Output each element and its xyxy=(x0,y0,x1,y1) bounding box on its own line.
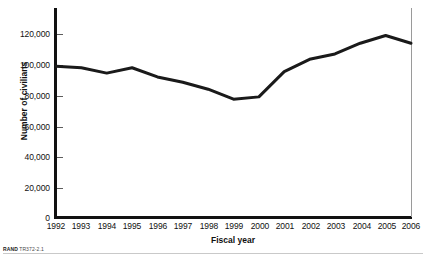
y-tick-label-120000: 120,000 xyxy=(2,30,50,39)
y-axis-title-wrapper: Number of civilians xyxy=(12,0,26,219)
x-tick-label-1999: 1999 xyxy=(225,221,244,231)
y-axis-tick-40000 xyxy=(57,157,63,158)
x-tick-label-1998: 1998 xyxy=(200,221,219,231)
y-axis-title: Number of civilians xyxy=(19,41,29,161)
chart-figure: 120,000 100,000 80,000 60,000 40,000 20,… xyxy=(0,0,427,258)
x-tick-label-1997: 1997 xyxy=(174,221,193,231)
x-axis-tick-labels: 1992 1993 1994 1995 1996 1997 1998 1999 … xyxy=(0,221,427,233)
figure-source-prefix: RAND xyxy=(3,246,18,252)
y-tick-label-20000: 20,000 xyxy=(2,184,50,193)
x-tick-label-2005: 2005 xyxy=(378,221,397,231)
x-tick-label-1994: 1994 xyxy=(98,221,117,231)
x-axis-title: Fiscal year xyxy=(54,235,412,245)
y-axis-tick-60000 xyxy=(57,127,63,128)
figure-source-id: TR372-2.1 xyxy=(19,246,44,252)
x-tick-label-2002: 2002 xyxy=(302,221,321,231)
footnote-divider xyxy=(3,253,423,254)
x-tick-label-2000: 2000 xyxy=(251,221,270,231)
plot-right-border xyxy=(411,8,412,217)
x-tick-label-1993: 1993 xyxy=(72,221,91,231)
x-tick-label-2006: 2006 xyxy=(402,221,421,231)
x-tick-label-1992: 1992 xyxy=(47,221,66,231)
x-tick-label-2003: 2003 xyxy=(327,221,346,231)
series-line-number-of-civilians xyxy=(0,0,427,258)
y-axis-tick-120000 xyxy=(57,34,63,35)
y-axis-tick-100000 xyxy=(57,65,63,66)
x-axis-line xyxy=(54,216,412,219)
x-tick-label-1996: 1996 xyxy=(149,221,168,231)
x-tick-label-2004: 2004 xyxy=(353,221,372,231)
y-axis-tick-20000 xyxy=(57,188,63,189)
x-tick-label-1995: 1995 xyxy=(123,221,142,231)
y-axis-tick-80000 xyxy=(57,96,63,97)
figure-source-note: RAND TR372-2.1 xyxy=(3,246,44,252)
x-tick-label-2001: 2001 xyxy=(276,221,295,231)
